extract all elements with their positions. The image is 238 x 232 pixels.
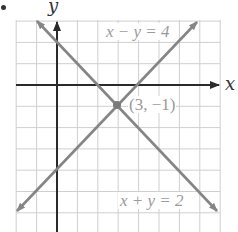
line-x-minus-y-equals-4 bbox=[17, 22, 197, 211]
equation-label-x-plus-y: x + y = 2 bbox=[118, 192, 186, 209]
y-axis-label: y bbox=[48, 0, 58, 15]
line-x-plus-y-equals-2 bbox=[37, 21, 217, 211]
intersection-point bbox=[113, 101, 121, 109]
equation-label-x-minus-y: x − y = 4 bbox=[104, 23, 172, 40]
x-axis-label: x bbox=[225, 75, 235, 93]
intersection-point-label: (3, −1) bbox=[128, 96, 176, 113]
